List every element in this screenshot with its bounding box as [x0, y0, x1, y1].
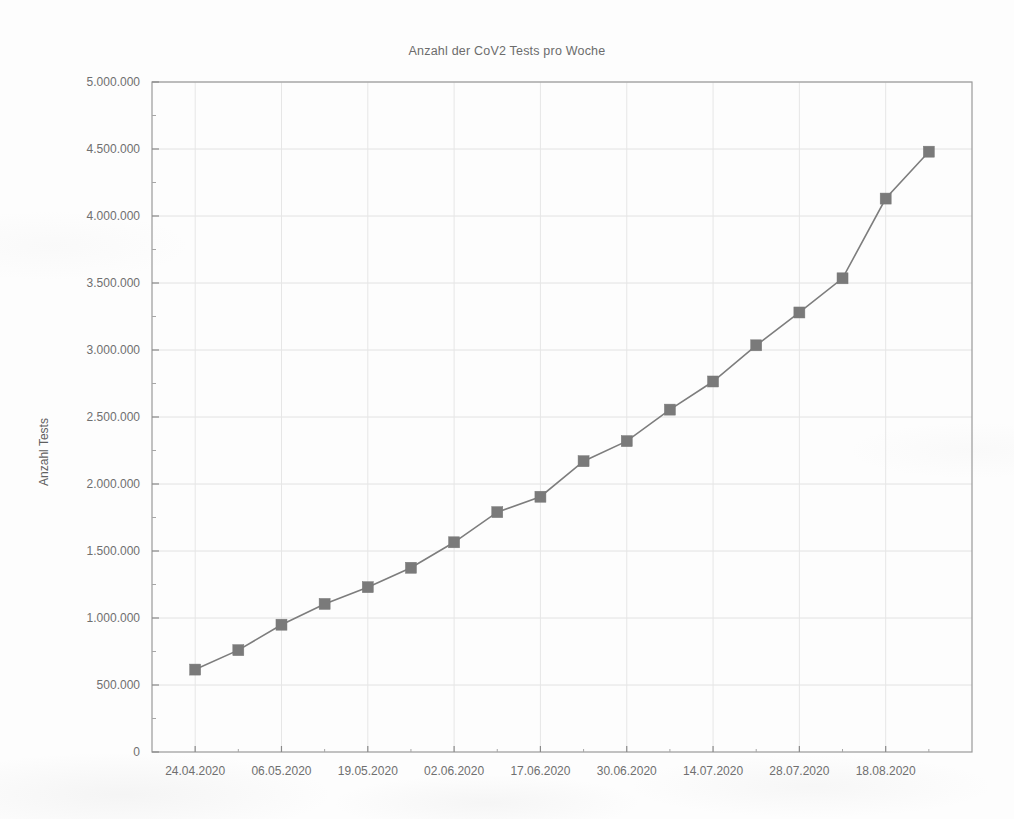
y-axis-title: Anzahl Tests: [37, 418, 51, 486]
data-point-marker: [362, 582, 373, 593]
data-point-marker: [276, 619, 287, 630]
data-point-marker: [794, 307, 805, 318]
line-chart: 0500.0001.000.0001.500.0002.000.0002.500…: [0, 0, 1014, 819]
x-axis-tick-label: 06.05.2020: [251, 764, 311, 778]
data-point-marker: [535, 491, 546, 502]
x-axis-tick-label: 02.06.2020: [424, 764, 484, 778]
y-axis-tick-label: 4.500.000: [87, 142, 141, 156]
x-axis-tick-label: 18.08.2020: [856, 764, 916, 778]
data-point-marker: [708, 376, 719, 387]
data-point-marker: [664, 404, 675, 415]
x-axis-tick-label: 30.06.2020: [597, 764, 657, 778]
data-point-marker: [190, 664, 201, 675]
data-series-markers: [190, 146, 935, 675]
y-axis-tick-label: 3.000.000: [87, 343, 141, 357]
data-point-marker: [405, 562, 416, 573]
data-point-marker: [233, 645, 244, 656]
data-point-marker: [578, 456, 589, 467]
x-axis-tick-label: 24.04.2020: [165, 764, 225, 778]
x-axis-tick-label: 17.06.2020: [510, 764, 570, 778]
data-point-marker: [449, 537, 460, 548]
y-axis-tick-label: 0: [133, 745, 140, 759]
y-axis-tick-label: 5.000.000: [87, 75, 141, 89]
data-point-marker: [492, 507, 503, 518]
y-axis-tick-label: 2.500.000: [87, 410, 141, 424]
chart-page: Anzahl der CoV2 Tests pro Woche 0500.000…: [0, 0, 1014, 819]
data-point-marker: [880, 193, 891, 204]
data-point-marker: [837, 273, 848, 284]
y-axis-tick-label: 2.000.000: [87, 477, 141, 491]
x-axis-tick-labels: 24.04.202006.05.202019.05.202002.06.2020…: [165, 764, 916, 778]
y-axis-tick-labels: 0500.0001.000.0001.500.0002.000.0002.500…: [87, 75, 141, 759]
data-point-marker: [751, 340, 762, 351]
data-point-marker: [621, 436, 632, 447]
y-axis-tick-label: 500.000: [97, 678, 141, 692]
y-axis-tick-label: 1.500.000: [87, 544, 141, 558]
x-axis-tick-label: 14.07.2020: [683, 764, 743, 778]
y-axis-tick-label: 1.000.000: [87, 611, 141, 625]
y-axis-tick-label: 3.500.000: [87, 276, 141, 290]
y-axis-ticks: [152, 82, 159, 752]
data-point-marker: [923, 146, 934, 157]
data-point-marker: [319, 598, 330, 609]
y-axis-tick-label: 4.000.000: [87, 209, 141, 223]
x-axis-tick-label: 28.07.2020: [769, 764, 829, 778]
x-axis-tick-label: 19.05.2020: [338, 764, 398, 778]
data-series-line: [195, 152, 929, 670]
grid-lines: [152, 82, 972, 752]
x-axis-ticks: [195, 746, 929, 752]
